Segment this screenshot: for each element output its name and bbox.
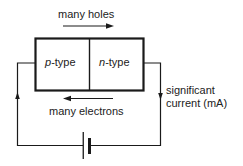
circuit-diagram bbox=[0, 0, 243, 166]
right-arrow-icon bbox=[106, 23, 114, 28]
current-label-line1: significant bbox=[166, 84, 215, 96]
up-arrow-icon bbox=[15, 92, 20, 99]
electrons-label: many electrons bbox=[49, 105, 124, 117]
down-arrow-icon bbox=[158, 93, 163, 100]
p-type-label: p-type bbox=[45, 56, 76, 68]
n-type-label: n-type bbox=[99, 56, 130, 68]
current-label-line2: current (mA) bbox=[166, 97, 227, 109]
battery-negative-plate bbox=[88, 138, 91, 154]
holes-label: many holes bbox=[58, 8, 114, 20]
battery-positive-plate bbox=[83, 132, 84, 159]
left-arrow-icon bbox=[63, 96, 71, 101]
